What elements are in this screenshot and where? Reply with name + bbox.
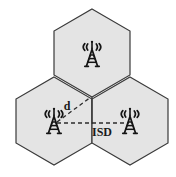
cell-radius-label: d	[64, 99, 71, 113]
inter-site-distance-label: ISD	[92, 125, 112, 139]
cellular-layout-diagram: d ISD	[0, 0, 176, 177]
diagram-canvas: d ISD	[0, 0, 176, 177]
